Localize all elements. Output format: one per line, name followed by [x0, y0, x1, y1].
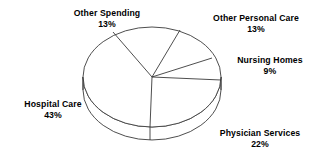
pie-label-physician-services: Physician Services 22% — [208, 128, 312, 149]
pie-label-hospital-care-value: 43% — [13, 110, 93, 121]
pie-label-other-personal-care-value: 13% — [200, 24, 312, 35]
pie-label-hospital-care-name: Hospital Care — [13, 99, 93, 110]
pie-label-nursing-homes: Nursing Homes 9% — [227, 55, 313, 76]
pie-label-other-spending-name: Other Spending — [63, 8, 151, 19]
pie-label-physician-services-value: 22% — [208, 139, 312, 150]
pie-label-nursing-homes-value: 9% — [227, 66, 313, 77]
pie-chart-figure: Other Spending 13% Other Personal Care 1… — [0, 0, 319, 160]
pie-label-other-spending: Other Spending 13% — [63, 8, 151, 29]
pie-label-other-personal-care: Other Personal Care 13% — [200, 13, 312, 34]
pie-label-other-personal-care-name: Other Personal Care — [200, 13, 312, 24]
pie-label-other-spending-value: 13% — [63, 19, 151, 30]
pie-label-hospital-care: Hospital Care 43% — [13, 99, 93, 120]
pie-label-nursing-homes-name: Nursing Homes — [227, 55, 313, 66]
pie-label-physician-services-name: Physician Services — [208, 128, 312, 139]
